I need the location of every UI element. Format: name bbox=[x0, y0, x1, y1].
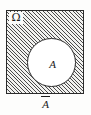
set-a-circle: A bbox=[27, 38, 76, 87]
omega-label: Ω bbox=[9, 12, 23, 24]
complement-label: A bbox=[0, 96, 91, 110]
complement-label-text: A bbox=[41, 96, 50, 110]
set-a-label: A bbox=[28, 39, 77, 88]
venn-diagram-figure: A Ω A bbox=[0, 0, 91, 115]
